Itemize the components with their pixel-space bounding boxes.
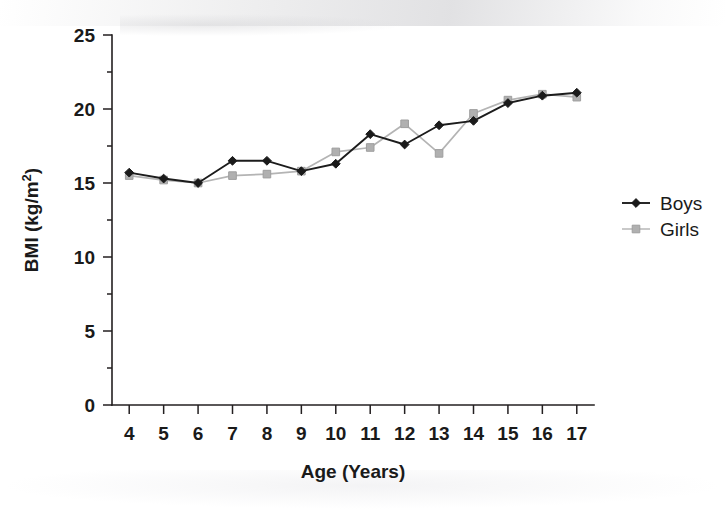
data-point bbox=[229, 172, 237, 180]
legend-marker bbox=[632, 225, 640, 233]
y-axis-title: BMI (kg/m2) bbox=[19, 168, 42, 272]
y-axis-tick-labels: 0510152025 bbox=[74, 25, 96, 416]
x-tick-label: 5 bbox=[158, 423, 169, 444]
x-axis-ticks bbox=[129, 405, 577, 414]
chart-legend: BoysGirls bbox=[622, 193, 702, 240]
x-axis: 4567891011121314151617 bbox=[112, 405, 594, 444]
legend-label: Girls bbox=[660, 219, 699, 240]
x-tick-label: 17 bbox=[566, 423, 587, 444]
y-axis-ticks bbox=[103, 35, 112, 405]
series-boys bbox=[125, 88, 581, 187]
x-tick-label: 14 bbox=[463, 423, 485, 444]
x-axis-tick-labels: 4567891011121314151617 bbox=[124, 423, 587, 444]
data-point bbox=[263, 170, 271, 178]
legend-marker bbox=[632, 199, 641, 208]
data-point bbox=[435, 150, 443, 158]
legend-item-boys[interactable]: Boys bbox=[622, 193, 702, 214]
x-axis-title: Age (Years) bbox=[301, 461, 406, 482]
data-point bbox=[263, 156, 272, 165]
x-tick-label: 10 bbox=[325, 423, 346, 444]
y-tick-label: 10 bbox=[74, 247, 95, 268]
y-axis-title-suffix: ) bbox=[21, 168, 42, 174]
y-tick-label: 5 bbox=[84, 321, 95, 342]
x-tick-label: 8 bbox=[262, 423, 273, 444]
data-point bbox=[401, 120, 409, 128]
x-tick-label: 9 bbox=[296, 423, 307, 444]
series-girls bbox=[125, 90, 580, 186]
x-tick-label: 7 bbox=[227, 423, 238, 444]
y-tick-label: 25 bbox=[74, 25, 96, 46]
y-axis-title-text: BMI (kg/m bbox=[21, 181, 42, 272]
legend-item-girls[interactable]: Girls bbox=[622, 219, 699, 240]
series-line bbox=[129, 94, 577, 183]
y-tick-label: 0 bbox=[84, 395, 95, 416]
chart-figure: 0510152025 4567891011121314151617 BMI (k… bbox=[0, 0, 725, 509]
y-tick-label: 15 bbox=[74, 173, 96, 194]
x-tick-label: 16 bbox=[532, 423, 553, 444]
series-layer bbox=[125, 88, 581, 187]
y-axis-title-superscript: 2 bbox=[19, 174, 34, 181]
data-point bbox=[332, 148, 340, 156]
x-tick-label: 12 bbox=[394, 423, 415, 444]
x-tick-label: 6 bbox=[193, 423, 204, 444]
data-point bbox=[400, 140, 409, 149]
data-point bbox=[366, 144, 374, 152]
x-tick-label: 15 bbox=[497, 423, 519, 444]
y-axis: 0510152025 bbox=[74, 25, 112, 416]
x-tick-label: 11 bbox=[360, 423, 381, 444]
x-tick-label: 13 bbox=[429, 423, 450, 444]
y-tick-label: 20 bbox=[74, 99, 95, 120]
x-tick-label: 4 bbox=[124, 423, 135, 444]
svg-text:BMI (kg/m2): BMI (kg/m2) bbox=[19, 168, 42, 272]
bmi-line-chart: 0510152025 4567891011121314151617 BMI (k… bbox=[0, 0, 725, 509]
legend-label: Boys bbox=[660, 193, 702, 214]
data-point bbox=[435, 121, 444, 130]
